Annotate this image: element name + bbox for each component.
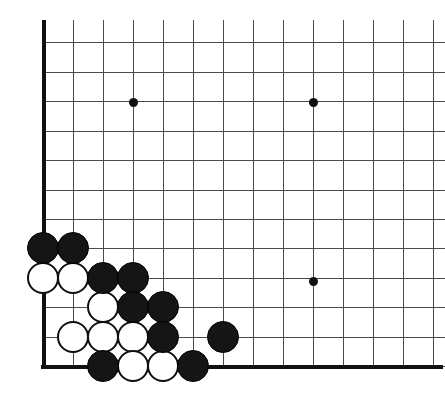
white-stone[interactable] bbox=[117, 321, 149, 353]
black-stone[interactable] bbox=[27, 232, 59, 264]
white-stone[interactable] bbox=[147, 350, 179, 382]
black-stone[interactable] bbox=[117, 262, 149, 294]
left-edge bbox=[42, 20, 46, 368]
black-stone[interactable] bbox=[87, 262, 119, 294]
grid-line-vertical-5 bbox=[193, 20, 194, 366]
grid-line-vertical-11 bbox=[373, 20, 374, 366]
grid-line-vertical-9 bbox=[313, 20, 314, 366]
black-stone[interactable] bbox=[177, 350, 209, 382]
black-stone[interactable] bbox=[117, 291, 149, 323]
white-stone[interactable] bbox=[87, 291, 119, 323]
black-stone[interactable] bbox=[57, 232, 89, 264]
grid-line-vertical-1 bbox=[73, 20, 74, 366]
lower-right-star-icon bbox=[309, 277, 318, 286]
white-stone[interactable] bbox=[27, 262, 59, 294]
black-stone[interactable] bbox=[87, 350, 119, 382]
black-stone[interactable] bbox=[207, 321, 239, 353]
upper-left-star-icon bbox=[129, 98, 138, 107]
grid-line-vertical-10 bbox=[343, 20, 344, 366]
grid-line-vertical-13 bbox=[433, 20, 434, 366]
grid-line-vertical-7 bbox=[253, 20, 254, 366]
grid-line-vertical-8 bbox=[283, 20, 284, 366]
black-stone[interactable] bbox=[147, 321, 179, 353]
white-stone[interactable] bbox=[57, 262, 89, 294]
white-stone[interactable] bbox=[87, 321, 119, 353]
white-stone[interactable] bbox=[117, 350, 149, 382]
grid-line-vertical-6 bbox=[223, 20, 224, 366]
grid-line-vertical-12 bbox=[403, 20, 404, 366]
upper-right-star-icon bbox=[309, 98, 318, 107]
go-board-figure bbox=[0, 0, 445, 409]
black-stone[interactable] bbox=[147, 291, 179, 323]
white-stone[interactable] bbox=[57, 321, 89, 353]
go-board-surface[interactable] bbox=[0, 0, 445, 409]
